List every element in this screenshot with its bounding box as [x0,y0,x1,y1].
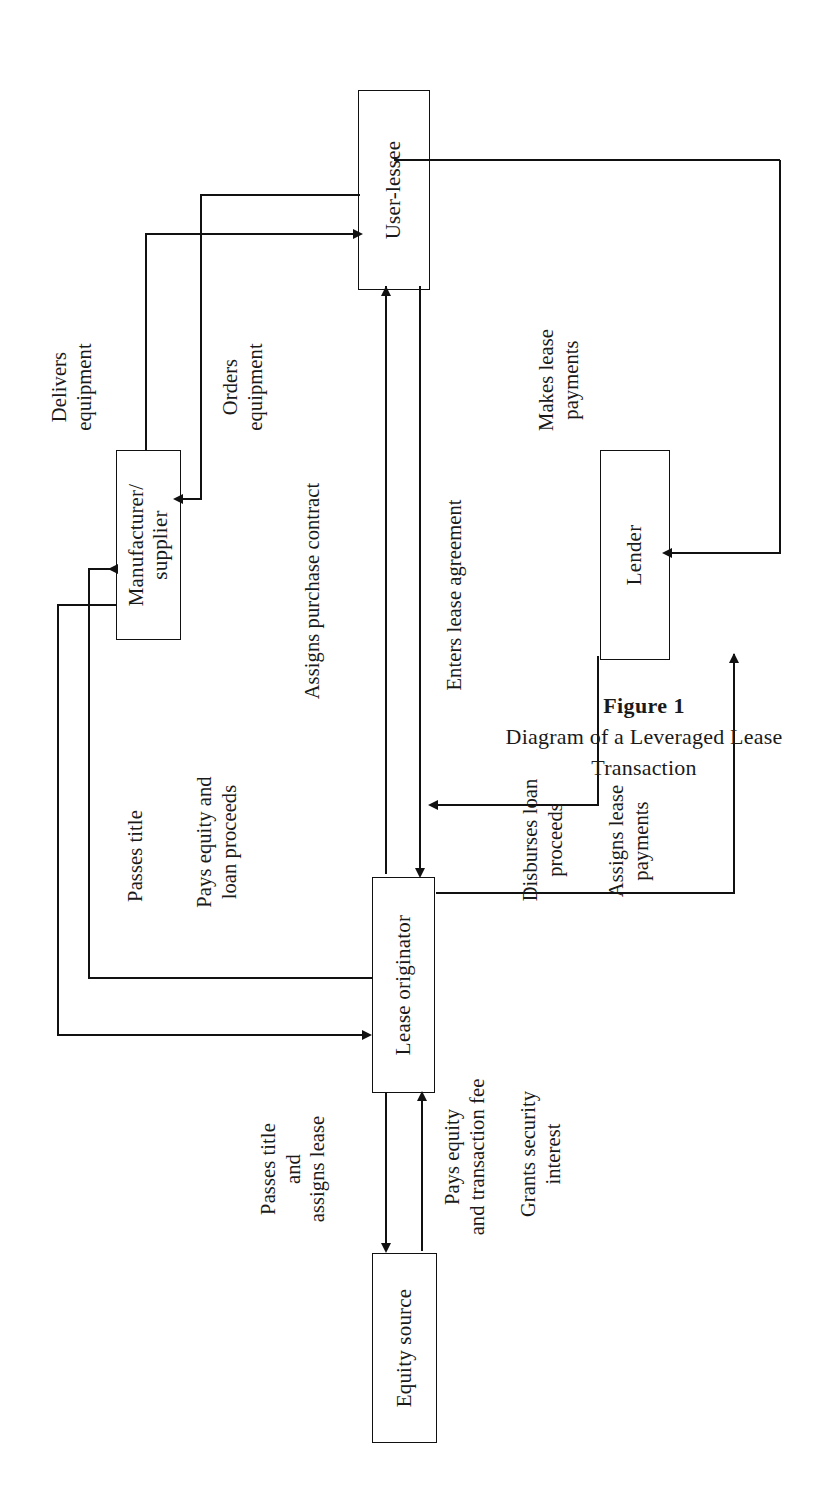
edge-enters-lease-agreement-line [419,286,421,872]
label-passes-title-and-assigns-lease: Passes title and assigns lease [256,1084,330,1254]
edge-pays-equity-loan-proceeds-line [88,977,372,979]
node-lease-originator[interactable]: Lease originator [372,877,435,1093]
edge-pays-equity-transaction-fee-arrow [417,1091,427,1101]
edge-assigns-lease-payments-arrow [729,653,739,663]
label-pays-equity-and-loan-proceeds: Pays equity and loan proceeds [192,736,241,948]
figure-caption: Figure 1 Diagram of a Leveraged Lease Tr… [494,690,794,784]
node-manufacturer-supplier[interactable]: Manufacturer/ supplier [116,450,181,640]
figure-title: Diagram of a Leveraged Lease Transaction [494,721,794,783]
edge-passes-title-arrow [362,1030,372,1040]
edge-orders-equipment-line [181,498,201,500]
label-assigns-purchase-contract: Assigns purchase contract [300,426,325,756]
label-grants-security-interest: Grants security interest [516,1064,565,1244]
node-lender[interactable]: Lender [600,450,670,660]
edge-passes-title-line [57,1034,362,1036]
figure-number: Figure 1 [494,690,794,721]
edge-makes-lease-payments-line [779,160,781,554]
edge-pays-equity-loan-proceeds-arrow [108,564,118,574]
edge-orders-equipment-arrow [173,494,183,504]
label-passes-title: Passes title [123,766,148,946]
node-user-lessee[interactable]: User-lessee [358,90,430,290]
edge-makes-lease-payments-line [394,159,780,161]
edge-delivers-equipment-line [145,233,360,235]
edge-makes-lease-payments-line [670,552,780,554]
label-enters-lease-agreement: Enters lease agreement [442,430,467,760]
label-pays-equity-and-transaction-fee: Pays equity and transaction fee [440,1050,489,1264]
edge-delivers-equipment-arrow [353,229,363,239]
label-orders-equipment: Orders equipment [218,294,267,480]
edge-passes-title-assigns-lease-line [385,1093,387,1251]
edge-delivers-equipment-line [145,234,147,450]
edge-assigns-lease-payments-line [436,892,734,894]
edge-passes-title-assigns-lease-arrow [381,1243,391,1253]
edge-disburses-loan-proceeds-line [436,804,598,806]
label-delivers-equipment: Delivers equipment [47,294,96,480]
edge-enters-lease-agreement-arrow [415,868,425,878]
edge-orders-equipment-line [200,194,202,500]
edge-pays-equity-loan-proceeds-line [88,569,90,979]
label-makes-lease-payments: Makes lease payments [534,278,583,482]
edge-passes-title-line [57,604,117,606]
node-equity-source[interactable]: Equity source [372,1253,437,1443]
edge-assigns-purchase-contract-arrow [381,286,391,296]
edge-orders-equipment-line [200,194,360,196]
edge-passes-title-line [57,604,59,1036]
edge-assigns-purchase-contract-line [385,286,387,874]
edge-disburses-loan-proceeds-arrow [428,800,438,810]
edge-pays-equity-transaction-fee-line [421,1095,423,1251]
edge-makes-lease-payments-arrow [662,548,672,558]
